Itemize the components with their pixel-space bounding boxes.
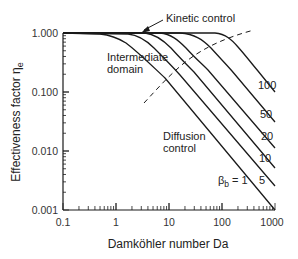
curve-label-20: 20 — [261, 130, 273, 142]
intermediate-label-line1: Intermediate — [107, 51, 168, 63]
curve-label-5: 5 — [259, 174, 265, 186]
diffusion-label-line2: control — [163, 142, 196, 154]
curve-label-100: 100 — [258, 79, 276, 91]
curve-label-50: 50 — [260, 108, 272, 120]
x-tick-label-1000: 1000 — [260, 216, 284, 228]
y-tick-label-0.001: 0.001 — [32, 204, 58, 216]
x-tick-label-1: 1 — [113, 216, 119, 228]
y-tick-label-1: 1.000 — [32, 27, 58, 39]
curve-label-beta-1: βb = 1 — [218, 174, 248, 189]
intermediate-label-line2: domain — [107, 63, 143, 75]
kinetic-control-annotation: Kinetic control — [141, 12, 235, 33]
dashed-boundary-line — [144, 30, 254, 103]
diffusion-label-line1: Diffusion — [163, 130, 206, 142]
x-tick-label-10: 10 — [163, 216, 175, 228]
y-tick-label-0.1: 0.100 — [32, 86, 58, 98]
kinetic-control-label: Kinetic control — [166, 12, 235, 24]
y-axis-title: Effectiveness factor ηe — [9, 62, 25, 182]
y-ticks — [63, 33, 69, 210]
y-tick-label-0.01: 0.010 — [32, 145, 58, 157]
curve-label-10: 10 — [259, 152, 271, 164]
x-ticks — [63, 203, 275, 210]
x-axis-title: Damköhler number Da — [108, 237, 229, 251]
curve-beta-5 — [63, 33, 275, 186]
x-tick-label-100: 100 — [213, 216, 231, 228]
effectiveness-factor-chart: 1.000 0.100 0.010 0.001 0.1 1 10 100 100… — [0, 0, 298, 259]
x-tick-label-0.1: 0.1 — [56, 216, 71, 228]
